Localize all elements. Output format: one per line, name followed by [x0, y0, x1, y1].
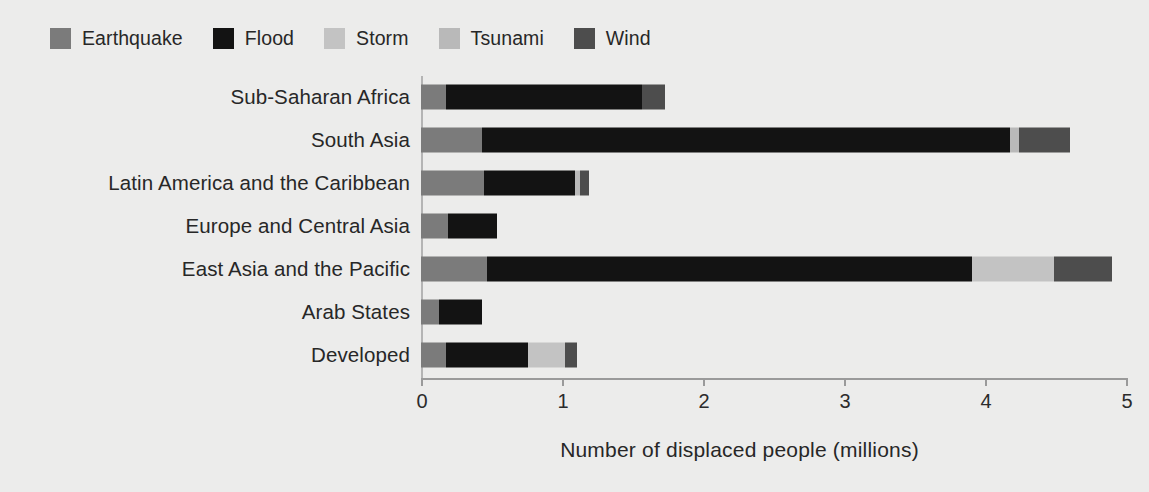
- legend-item[interactable]: Storm: [324, 27, 409, 50]
- bar-segment[interactable]: [642, 85, 665, 110]
- chart-bar-row: Developed: [0, 334, 1149, 376]
- bar-segment[interactable]: [439, 300, 481, 325]
- legend-item-label: Wind: [606, 27, 651, 50]
- x-axis-tick-label: 3: [839, 390, 850, 413]
- legend-swatch-icon: [439, 28, 460, 49]
- chart-plot-area: EarthquakeFloodStormTsunamiWind 012345 S…: [0, 0, 1149, 492]
- stacked-bar[interactable]: [421, 214, 497, 239]
- bar-segment[interactable]: [528, 343, 565, 368]
- stacked-bar[interactable]: [421, 300, 482, 325]
- x-axis-tick: [562, 378, 564, 386]
- bar-segment[interactable]: [1054, 257, 1112, 282]
- legend-item[interactable]: Earthquake: [50, 27, 183, 50]
- stacked-bar[interactable]: [421, 128, 1070, 153]
- y-axis-category-label: Developed: [311, 343, 410, 367]
- legend-swatch-icon: [574, 28, 595, 49]
- bar-segment[interactable]: [421, 171, 484, 196]
- x-axis-tick-label: 5: [1121, 390, 1132, 413]
- x-axis-title-text: Number of displaced people (millions): [560, 438, 919, 462]
- bar-segment[interactable]: [448, 214, 497, 239]
- legend-item-label: Flood: [245, 27, 294, 50]
- stacked-bar[interactable]: [421, 171, 589, 196]
- chart-bar-row: Sub-Saharan Africa: [0, 76, 1149, 118]
- bar-segment[interactable]: [421, 300, 439, 325]
- legend-item-label: Tsunami: [471, 27, 544, 50]
- bar-segment[interactable]: [421, 257, 487, 282]
- bar-segment[interactable]: [421, 85, 446, 110]
- bar-segment[interactable]: [421, 128, 482, 153]
- bar-segment[interactable]: [446, 85, 642, 110]
- bar-segment[interactable]: [972, 257, 1054, 282]
- bar-segment[interactable]: [487, 257, 972, 282]
- y-axis-category-label: South Asia: [311, 128, 410, 152]
- x-axis-tick: [421, 378, 423, 386]
- x-axis-tick: [1126, 378, 1128, 386]
- x-axis-tick-label: 1: [557, 390, 568, 413]
- bar-segment[interactable]: [484, 171, 574, 196]
- x-axis-tick: [844, 378, 846, 386]
- x-axis-line: [421, 378, 1127, 380]
- bar-segment[interactable]: [421, 343, 446, 368]
- chart-bar-row: Latin America and the Caribbean: [0, 162, 1149, 204]
- y-axis-category-label: Europe and Central Asia: [185, 214, 410, 238]
- legend-swatch-icon: [213, 28, 234, 49]
- x-axis-title: Number of displaced people (millions): [0, 438, 1149, 462]
- x-axis-tick-label: 2: [698, 390, 709, 413]
- x-axis-tick-label: 0: [416, 390, 427, 413]
- bar-segment[interactable]: [565, 343, 578, 368]
- legend-item[interactable]: Flood: [213, 27, 294, 50]
- x-axis-tick: [703, 378, 705, 386]
- legend-item-label: Storm: [356, 27, 409, 50]
- y-axis-category-label: Latin America and the Caribbean: [108, 171, 410, 195]
- legend-swatch-icon: [324, 28, 345, 49]
- bar-segment[interactable]: [421, 214, 448, 239]
- chart-bar-row: Arab States: [0, 291, 1149, 333]
- y-axis-category-label: East Asia and the Pacific: [182, 257, 410, 281]
- y-axis-category-label: Arab States: [302, 300, 410, 324]
- x-axis-tick-label: 4: [980, 390, 991, 413]
- bar-segment[interactable]: [482, 128, 1011, 153]
- chart-bar-row: East Asia and the Pacific: [0, 248, 1149, 290]
- chart-legend: EarthquakeFloodStormTsunamiWind: [50, 24, 681, 52]
- x-axis-tick: [985, 378, 987, 386]
- bar-segment[interactable]: [446, 343, 528, 368]
- bar-segment[interactable]: [580, 171, 588, 196]
- legend-swatch-icon: [50, 28, 71, 49]
- legend-item[interactable]: Tsunami: [439, 27, 544, 50]
- stacked-bar[interactable]: [421, 257, 1112, 282]
- stacked-bar[interactable]: [421, 343, 577, 368]
- stacked-bar[interactable]: [421, 85, 665, 110]
- chart-bar-row: South Asia: [0, 119, 1149, 161]
- bar-segment[interactable]: [1019, 128, 1070, 153]
- y-axis-category-label: Sub-Saharan Africa: [230, 85, 410, 109]
- bar-segment[interactable]: [1010, 128, 1018, 153]
- legend-item-label: Earthquake: [82, 27, 183, 50]
- chart-bar-row: Europe and Central Asia: [0, 205, 1149, 247]
- legend-item[interactable]: Wind: [574, 27, 651, 50]
